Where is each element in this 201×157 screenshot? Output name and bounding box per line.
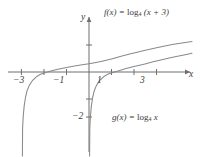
x-axis: [8, 70, 190, 75]
y-axis-label: y: [81, 13, 85, 23]
logarithm-graph-figure: −3 −1 1 3 −2 y x f(x) = log4 (x + 3) g(x…: [0, 0, 201, 157]
x-tick-label-1: 1: [97, 76, 102, 86]
y-tick-label-neg2: −2: [72, 112, 83, 122]
f-body: (x + 3): [144, 7, 169, 17]
x-tick-label-3: 3: [140, 76, 145, 86]
g-arg: (x): [117, 112, 127, 122]
y-axis: [87, 17, 92, 152]
function-label-g: g(x) = log4 x: [112, 113, 158, 122]
g-op: log: [137, 112, 149, 122]
f-arg: (x): [107, 7, 117, 17]
x-tick-label-neg3: −3: [13, 76, 24, 86]
g-body: x: [154, 112, 158, 122]
x-tick-label-neg1: −1: [53, 76, 64, 86]
f-op: log: [127, 7, 139, 17]
curve-g: [90, 53, 192, 156]
x-axis-label: x: [189, 70, 193, 80]
g-eq: =: [129, 112, 135, 122]
f-eq: =: [119, 7, 125, 17]
function-label-f: f(x) = log4 (x + 3): [104, 8, 169, 17]
